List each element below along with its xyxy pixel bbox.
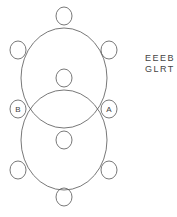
code-line-2: GLRT bbox=[145, 64, 175, 75]
small-circle-inner-upper bbox=[56, 69, 72, 87]
diagram-canvas: B A bbox=[0, 0, 177, 217]
small-circle-inner-lower bbox=[56, 131, 72, 149]
code-line-1: EEEB bbox=[145, 53, 175, 64]
label-b: B bbox=[15, 105, 20, 114]
lower-large-circle bbox=[21, 90, 107, 190]
small-circle-upper-left bbox=[10, 41, 26, 59]
small-circle-bottom bbox=[56, 188, 72, 206]
small-circle-top bbox=[56, 7, 72, 25]
upper-large-circle bbox=[21, 28, 107, 128]
small-circle-lower-right bbox=[101, 161, 117, 179]
small-circle-lower-left bbox=[10, 161, 26, 179]
small-circle-upper-right bbox=[101, 41, 117, 59]
label-a: A bbox=[106, 105, 112, 114]
